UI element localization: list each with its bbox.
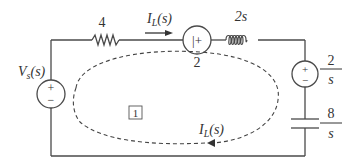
svg-text:s: s	[328, 72, 334, 87]
inductor-value: 2s	[235, 9, 248, 24]
current-arrow-top	[145, 30, 173, 36]
capacitor-value-fraction: 8 s	[320, 106, 342, 141]
mesh-arrowhead-icon	[207, 139, 215, 147]
il-label-bottom: IL(s)	[198, 122, 224, 139]
minus-sign: −	[48, 93, 55, 107]
inductor	[226, 36, 247, 45]
wires	[51, 40, 305, 156]
mesh-loop	[73, 51, 278, 147]
svg-text:2: 2	[328, 53, 335, 68]
dependent-source: |+	[183, 26, 211, 54]
minus-sign: −	[302, 74, 308, 86]
voltage-source: + −	[37, 80, 65, 108]
resistor	[92, 35, 119, 45]
resistor-value: 4	[99, 15, 106, 30]
vs-label: Vs(s)	[18, 64, 46, 81]
source-value-fraction: 2 s	[320, 53, 342, 87]
initial-condition-source: + −	[292, 61, 318, 87]
il-label-top: IL(s)	[146, 11, 172, 28]
dependent-source-value: 2	[194, 55, 201, 70]
circuit-diagram: + − Vs(s) 4 IL(s) |+ 2 2s + − 2 s 8	[0, 0, 360, 164]
svg-text:s: s	[328, 126, 334, 141]
svg-text:8: 8	[328, 106, 335, 121]
capacitor	[291, 119, 319, 128]
loop-label: 1	[133, 107, 139, 119]
dependent-source-symbol: |+	[192, 33, 202, 48]
